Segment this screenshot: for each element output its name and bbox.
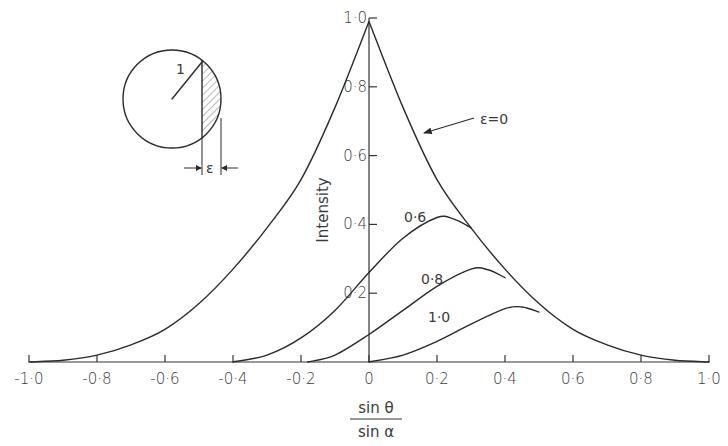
curve--0-8 bbox=[308, 268, 505, 362]
x-axis-title-denominator: sin α bbox=[358, 423, 394, 441]
x-tick-label: -0·2 bbox=[286, 370, 315, 388]
epsilon-zero-label: ε=0 bbox=[480, 111, 508, 127]
y-axis-title: Intensity bbox=[314, 177, 332, 242]
curve--1-0 bbox=[369, 307, 539, 362]
x-tick-label: 0·8 bbox=[629, 370, 653, 388]
x-tick-label: -1·0 bbox=[14, 370, 43, 388]
x-axis-title: sin θ sin α bbox=[350, 399, 402, 441]
annotation-arrow-icon bbox=[424, 118, 474, 133]
shaded-segment bbox=[202, 60, 221, 137]
x-tick-label: -0·4 bbox=[218, 370, 247, 388]
curve-label-0-8: 0·8 bbox=[421, 271, 443, 287]
x-tick-label: 1·0 bbox=[697, 370, 721, 388]
epsilon-width-label: ε bbox=[206, 160, 214, 176]
x-axis: -1·0-0·8-0·6-0·4-0·200·20·40·60·81·0 bbox=[14, 355, 721, 388]
y-tick-label: 1·0 bbox=[343, 9, 367, 27]
curve-label-1-0: 1·0 bbox=[428, 309, 450, 325]
x-tick-label: 0·6 bbox=[561, 370, 585, 388]
x-tick-label: -0·6 bbox=[150, 370, 179, 388]
intensity-chart: -1·0-0·8-0·6-0·4-0·200·20·40·60·81·0 0·2… bbox=[0, 0, 728, 446]
x-tick-label: 0·2 bbox=[425, 370, 449, 388]
x-tick-label: -0·8 bbox=[82, 370, 111, 388]
y-tick-label: 0·4 bbox=[343, 215, 367, 233]
y-tick-label: 0·2 bbox=[343, 284, 367, 302]
x-axis-title-numerator: sin θ bbox=[358, 399, 393, 417]
epsilon-zero-annotation: ε=0 bbox=[424, 111, 508, 133]
curve-label-0-6: 0·6 bbox=[404, 209, 426, 225]
x-tick-label: 0·4 bbox=[493, 370, 517, 388]
y-tick-label: 0·6 bbox=[343, 147, 367, 165]
y-axis: 0·20·40·60·81·0 bbox=[343, 9, 377, 362]
radius-label: 1 bbox=[176, 61, 185, 77]
inset-circle-diagram: 1 ε bbox=[123, 50, 238, 176]
x-tick-label: 0 bbox=[364, 370, 374, 388]
